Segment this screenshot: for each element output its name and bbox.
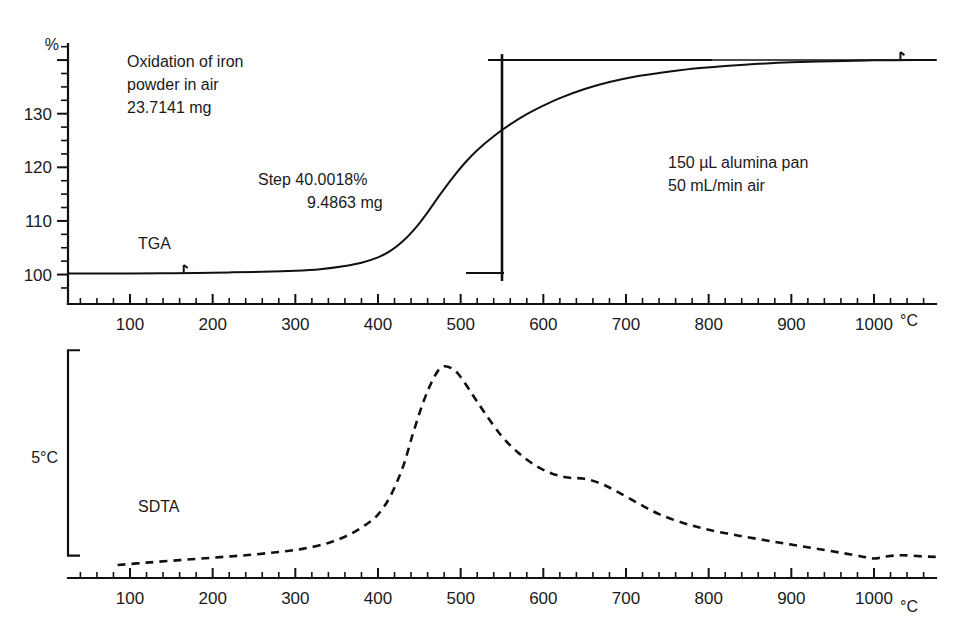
sdta-x-tick-label: 600 xyxy=(529,589,557,608)
sdta-x-tick-label: 700 xyxy=(612,589,640,608)
sdta-scale-bracket xyxy=(68,350,80,555)
chart-canvas: 1001101201301002003004005006007008009001… xyxy=(0,0,956,635)
sdta-x-tick-label: 800 xyxy=(694,589,722,608)
sdta-curve xyxy=(118,366,936,565)
tga-x-tick-label: 500 xyxy=(446,315,474,334)
sdta-x-tick-label: 1000 xyxy=(855,589,893,608)
sdta-x-tick-label: 400 xyxy=(364,589,392,608)
tga-y-tick-label: 100 xyxy=(24,266,52,285)
sdta-x-tick-label: 100 xyxy=(116,589,144,608)
sdta-x-tick-label: 200 xyxy=(198,589,226,608)
sdta-x-tick-label: 300 xyxy=(281,589,309,608)
sdta-x-tick-label: 900 xyxy=(777,589,805,608)
tga-y-tick-label: 120 xyxy=(24,158,52,177)
sdta-x-tick-label: 500 xyxy=(446,589,474,608)
tga-x-tick-label: 400 xyxy=(364,315,392,334)
tga-x-tick-label: 1000 xyxy=(855,315,893,334)
tga-x-tick-label: 900 xyxy=(777,315,805,334)
tga-x-tick-label: 100 xyxy=(116,315,144,334)
tga-x-tick-label: 600 xyxy=(529,315,557,334)
tga-x-tick-label: 300 xyxy=(281,315,309,334)
tga-x-tick-label: 700 xyxy=(612,315,640,334)
thermal-analysis-figure: 1001101201301002003004005006007008009001… xyxy=(0,0,956,635)
tga-x-tick-label: 800 xyxy=(694,315,722,334)
tga-y-tick-label: 110 xyxy=(25,212,52,231)
tga-x-tick-label: 200 xyxy=(198,315,226,334)
tga-y-tick-label: 130 xyxy=(24,105,52,124)
